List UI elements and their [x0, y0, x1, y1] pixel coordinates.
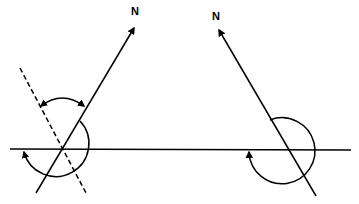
right-north-label: N [212, 10, 220, 22]
left-bearing-diagram: N [20, 5, 139, 193]
right-north-arrow [219, 30, 316, 196]
left-north-label: N [131, 5, 139, 17]
right-bearing-diagram: N [212, 10, 316, 196]
left-north-arrow [36, 28, 134, 193]
bearing-diagram: N N [0, 0, 359, 204]
right-bearing-arc [249, 118, 315, 184]
left-dashed-line [20, 68, 86, 193]
left-angle-double-arrow [41, 98, 84, 106]
